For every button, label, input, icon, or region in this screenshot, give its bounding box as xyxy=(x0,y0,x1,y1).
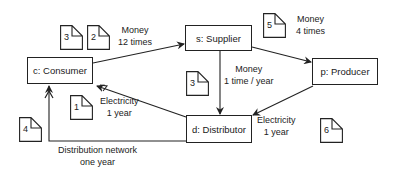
node-supplier-label: s: Supplier xyxy=(196,33,241,44)
edge-label-line: Distribution network xyxy=(58,144,137,156)
node-producer[interactable]: p: Producer xyxy=(312,58,378,85)
edge-label-line: one year xyxy=(58,156,137,168)
node-consumer[interactable]: c: Consumer xyxy=(27,57,93,84)
document-6-icon: 6 xyxy=(320,118,343,142)
document-number: 2 xyxy=(91,32,96,42)
node-producer-label: p: Producer xyxy=(320,66,369,77)
edge-label-money-12-times: Money 12 times xyxy=(118,24,152,48)
edge-label-electricity-p-to-d: Electricity 1 year xyxy=(257,114,296,138)
document-5-icon: 5 xyxy=(263,13,286,37)
edge-label-line: Electricity xyxy=(257,114,296,126)
edge-label-line: Money xyxy=(296,13,325,25)
edge-label-distribution-network: Distribution network one year xyxy=(58,144,137,168)
document-4-icon: 4 xyxy=(19,117,42,141)
edge-label-line: Money xyxy=(118,24,152,36)
edge-label-line: 1 year xyxy=(100,107,139,119)
node-consumer-label: c: Consumer xyxy=(33,65,87,76)
edge-label-money-4-times: Money 4 times xyxy=(296,13,325,37)
node-distributor-label: d: Distributor xyxy=(192,124,246,135)
edge-label-line: 1 time / year xyxy=(224,75,274,87)
document-number: 3 xyxy=(64,32,69,42)
edge-label-money-1-time-year: Money 1 time / year xyxy=(224,63,274,87)
document-number: 4 xyxy=(23,124,28,134)
edge-label-line: Electricity xyxy=(100,95,139,107)
edge-producer-to-distributor xyxy=(253,86,313,115)
node-distributor[interactable]: d: Distributor xyxy=(186,115,252,143)
edge-label-line: 4 times xyxy=(296,25,325,37)
value-exchange-diagram: c: Consumer s: Supplier p: Producer d: D… xyxy=(0,0,396,174)
document-2-icon: 2 xyxy=(87,25,110,49)
edge-label-line: Money xyxy=(224,63,274,75)
document-number: 3 xyxy=(190,78,195,88)
document-number: 5 xyxy=(267,20,272,30)
document-3b-icon: 3 xyxy=(186,71,209,95)
document-3-icon: 3 xyxy=(60,25,83,49)
edge-label-electricity-d-to-c: Electricity 1 year xyxy=(100,95,139,119)
edge-supplier-to-producer xyxy=(252,47,311,62)
document-number: 6 xyxy=(324,125,329,135)
node-supplier[interactable]: s: Supplier xyxy=(185,25,252,51)
document-number: 1 xyxy=(74,102,79,112)
edge-label-line: 12 times xyxy=(118,36,152,48)
edge-label-line: 1 year xyxy=(257,126,296,138)
document-1-icon: 1 xyxy=(70,95,93,119)
